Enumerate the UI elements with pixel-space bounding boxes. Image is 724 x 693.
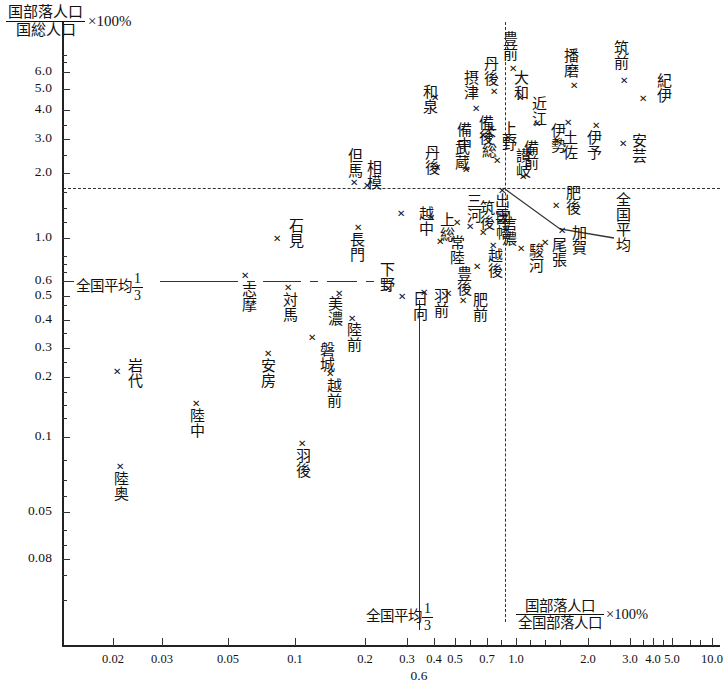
- x-tick-minor: [545, 640, 546, 645]
- y-tick-minor: [62, 256, 67, 257]
- x-tick-mark: [162, 638, 163, 646]
- y-tick-label: 5.0: [8, 80, 52, 96]
- y-tick-minor: [62, 600, 67, 601]
- data-point-label: 加賀: [570, 225, 585, 255]
- y-tick-label: 0.05: [8, 503, 52, 519]
- left-third-denominator: 3: [132, 288, 143, 304]
- x-tick-minor: [560, 640, 561, 645]
- data-point-label: 紀伊: [655, 73, 670, 103]
- data-point-marker: ✕: [619, 139, 628, 148]
- data-point-label: 相模: [365, 160, 380, 190]
- y-tick-mark: [62, 296, 70, 297]
- data-point-label: 豊後: [455, 266, 470, 296]
- data-point-label: 対馬: [281, 292, 296, 322]
- data-point-marker: ✕: [564, 118, 573, 127]
- data-point-label: 陸奥: [112, 471, 127, 501]
- data-point-label: 播磨: [562, 48, 577, 78]
- y-tick-minor: [62, 125, 67, 126]
- data-point-marker: ✕: [570, 81, 579, 90]
- data-point-label: 陸前: [345, 322, 360, 352]
- x-tick-mark: [588, 638, 589, 646]
- x-axis-title-suffix: ×100%: [604, 606, 648, 623]
- data-point-label: 摂津: [462, 70, 477, 100]
- x-tick-mark: [630, 638, 631, 646]
- y-tick-mark: [62, 320, 70, 321]
- data-point-marker: ✕: [397, 209, 406, 218]
- data-point-label: 陸中: [188, 408, 203, 438]
- data-point-label: 下野: [378, 262, 393, 292]
- x-tick-mark: [295, 638, 296, 646]
- data-point-marker: ✕: [558, 226, 567, 235]
- x-tick-mark: [365, 638, 366, 646]
- x-tick-mark: [487, 638, 488, 646]
- data-point-label: 石見: [287, 218, 302, 248]
- data-point-marker: ✕: [466, 222, 475, 231]
- x-tick-label: 5.0: [652, 652, 692, 667]
- left-national-average-third-text: 全国平均: [76, 278, 132, 294]
- y-tick-minor: [62, 496, 67, 497]
- y-tick-mark: [62, 72, 70, 73]
- bottom-national-average-third-note: 全国平均 1 3: [366, 601, 433, 633]
- data-point-label: 但馬: [346, 148, 361, 178]
- data-point-marker: ✕: [326, 369, 335, 378]
- x-tick-minor: [663, 640, 664, 645]
- y-tick-minor: [62, 272, 67, 273]
- data-point-label: 駿河: [527, 243, 542, 273]
- x-tick-mark: [228, 638, 229, 646]
- left-national-average-third-note: 全国平均 1 3: [76, 271, 143, 303]
- data-point-label: 丹後: [423, 145, 438, 175]
- data-point-label: 上野: [500, 121, 515, 151]
- y-tick-label: 0.5: [8, 287, 52, 303]
- data-point-marker: ✕: [490, 87, 499, 96]
- data-point-marker: ✕: [192, 399, 201, 408]
- data-point-label: 信濃: [500, 216, 515, 246]
- y-tick-label: 0.2: [8, 368, 52, 384]
- left-third-numerator: 1: [132, 271, 143, 288]
- x-axis-title: 国部落人口 全国部落人口 ×100%: [516, 598, 648, 631]
- data-point-label: 羽後: [294, 448, 309, 478]
- chart-canvas: 国部落人口 国総人口 ×100% 全国平均 全国平均 1 3 全国平均 1 3 …: [0, 0, 724, 693]
- data-point-marker: ✕: [479, 228, 488, 237]
- data-point-marker: ✕: [427, 213, 436, 222]
- y-tick-label: 1.0: [8, 229, 52, 245]
- y-tick-minor: [62, 264, 67, 265]
- data-point-label: 安房: [259, 358, 274, 388]
- x-tick-minor: [501, 640, 502, 645]
- x-tick-label: 10.0: [692, 652, 724, 667]
- x-tick-mark: [407, 638, 408, 646]
- y-tick-minor: [62, 480, 67, 481]
- y-tick-mark: [62, 281, 70, 282]
- data-point-label: 豊前: [501, 31, 516, 61]
- bottom-third-numerator: 1: [422, 601, 433, 618]
- data-point-label: 武蔵: [453, 140, 468, 170]
- data-point-label: 讃岐: [514, 148, 529, 178]
- y-tick-minor: [62, 62, 67, 63]
- data-point-label: 越後: [486, 248, 501, 278]
- y-tick-minor: [62, 392, 67, 393]
- bottom-national-average-third-text: 全国平均: [366, 608, 422, 624]
- x-tick-minor: [690, 640, 691, 645]
- x-tick-minor: [530, 640, 531, 645]
- data-point-marker: ✕: [273, 234, 282, 243]
- x-tick-label: 0.02: [93, 652, 133, 667]
- y-tick-minor: [62, 55, 67, 56]
- x-tick-label: 0.2: [345, 652, 385, 667]
- x-tick-mark: [516, 638, 517, 646]
- data-point-marker: ✕: [459, 296, 468, 305]
- data-point-marker: ✕: [354, 223, 363, 232]
- y-tick-minor: [62, 155, 67, 156]
- data-point-marker: ✕: [592, 121, 601, 130]
- y-tick-label: 2.0: [8, 164, 52, 180]
- y-tick-minor: [62, 333, 67, 334]
- data-point-marker: ✕: [472, 104, 481, 113]
- x-tick-minor: [610, 640, 611, 645]
- data-point-marker: ✕: [264, 349, 273, 358]
- data-point-marker: ✕: [116, 462, 125, 471]
- data-point-marker: ✕: [444, 289, 453, 298]
- data-point-marker: ✕: [241, 271, 250, 280]
- x-tick-mark: [653, 638, 654, 646]
- data-point-marker: ✕: [113, 367, 122, 376]
- y-tick-mark: [62, 348, 70, 349]
- data-point-label: 志摩: [240, 282, 255, 312]
- data-point-label: 下総: [480, 128, 495, 158]
